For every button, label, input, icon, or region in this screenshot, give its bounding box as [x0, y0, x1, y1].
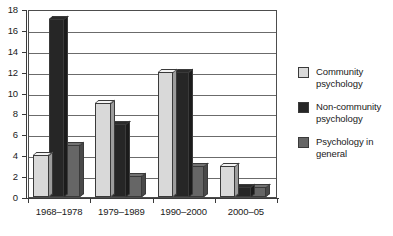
- y-axis-tick: [22, 31, 27, 32]
- legend-swatch: [298, 137, 309, 148]
- legend-label: Community: [316, 66, 393, 78]
- y-axis-tick: [22, 156, 27, 157]
- y-axis-tick: [22, 52, 27, 53]
- y-axis-tick: [22, 10, 27, 11]
- x-axis-tick: [28, 198, 29, 203]
- y-axis-tick: [22, 73, 27, 74]
- bar-side: [173, 69, 177, 197]
- y-axis-tick: [22, 135, 27, 136]
- bar-side: [80, 142, 84, 197]
- y-axis-tick-label: 6: [0, 130, 18, 140]
- y-axis-tick-label: 14: [0, 47, 18, 57]
- x-axis-tick: [277, 198, 278, 203]
- bar-face: [95, 103, 111, 197]
- y-axis-tick-label: 4: [0, 151, 18, 161]
- legend-label-continued: psychology: [316, 113, 393, 125]
- bar-side: [49, 152, 53, 197]
- x-axis-tick: [153, 198, 154, 203]
- x-axis-tick-label: 1968–1978: [28, 206, 90, 217]
- x-axis-tick-label: 1979–1989: [90, 206, 152, 217]
- x-axis-tick: [90, 198, 91, 203]
- y-axis-tick-label: 10: [0, 89, 18, 99]
- y-axis-tick-label: 2: [0, 172, 18, 182]
- bar-side: [189, 69, 193, 197]
- y-axis-tick: [22, 114, 27, 115]
- legend-label: Non-community: [316, 101, 393, 113]
- legend-swatch: [298, 102, 309, 113]
- bar-face: [158, 72, 174, 197]
- y-axis-tick-label: 18: [0, 5, 18, 15]
- bar-side: [204, 163, 208, 197]
- y-axis-tick-label: 16: [0, 26, 18, 36]
- x-axis-tick: [215, 198, 216, 203]
- legend-item: Non-communitypsychology: [298, 101, 393, 125]
- y-axis-tick: [22, 94, 27, 95]
- y-axis-tick-label: 0: [0, 193, 18, 203]
- legend-item: Communitypsychology: [298, 66, 393, 90]
- bar-side: [126, 121, 130, 197]
- y-axis-tick-label: 12: [0, 68, 18, 78]
- bar: [158, 72, 174, 197]
- bar-chart: 024681012141618 1968–19781979–19891990–2…: [0, 0, 393, 236]
- bar-face: [220, 166, 236, 197]
- bar-face: [33, 155, 49, 197]
- bar: [220, 166, 236, 197]
- legend-item: Psychology ingeneral: [298, 136, 393, 160]
- bar: [33, 155, 49, 197]
- bar-side: [64, 17, 68, 197]
- bar-side: [111, 100, 115, 197]
- legend-label-continued: psychology: [316, 78, 393, 90]
- bar: [95, 103, 111, 197]
- x-axis-tick-label: 2000–05: [215, 206, 277, 217]
- plot-area: [28, 10, 277, 198]
- legend-label-continued: general: [316, 148, 393, 160]
- y-axis-tick: [22, 177, 27, 178]
- y-axis-line: [26, 10, 27, 198]
- bar-side: [235, 163, 239, 197]
- bar-side: [142, 173, 146, 197]
- x-axis-tick-label: 1990–2000: [153, 206, 215, 217]
- y-axis-tick-label: 8: [0, 109, 18, 119]
- chart-legend: CommunitypsychologyNon-communitypsycholo…: [298, 66, 393, 171]
- legend-swatch: [298, 67, 309, 78]
- legend-label: Psychology in: [316, 136, 393, 148]
